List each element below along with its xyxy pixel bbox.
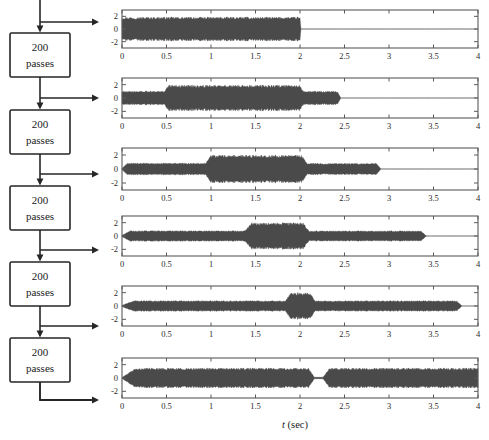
x-tick-label: 1	[209, 329, 213, 339]
y-tick-label: -2	[111, 37, 118, 47]
x-tick-label: 3.5	[428, 193, 439, 203]
flow-box-label-line1: 200	[32, 270, 49, 282]
flow-box-label-line1: 200	[32, 118, 49, 130]
flow-box-rect[interactable]	[10, 338, 70, 382]
x-tick-label: 3.5	[428, 329, 439, 339]
flow-box-rect[interactable]	[10, 262, 70, 306]
x-axis-label: t (sec)	[282, 419, 308, 431]
y-tick-label: -2	[111, 314, 118, 324]
x-tick-label: 0.5	[161, 259, 172, 269]
x-tick-label: 1	[209, 401, 213, 411]
x-tick-label: 0.5	[161, 401, 172, 411]
x-tick-label: 1	[209, 193, 213, 203]
flow-box-2[interactable]: 200passes	[10, 186, 70, 230]
x-tick-label: 1.5	[250, 259, 261, 269]
x-tick-label: 0.5	[161, 329, 172, 339]
x-tick-label: 0.5	[161, 51, 172, 61]
flow-box-rect[interactable]	[10, 186, 70, 230]
x-tick-label: 0	[120, 401, 124, 411]
flow-box-rect[interactable]	[10, 33, 70, 77]
x-tick-label: 3.5	[428, 259, 439, 269]
x-tick-label: 3.5	[428, 401, 439, 411]
flow-box-label-line1: 200	[32, 346, 49, 358]
x-tick-label: 3.5	[428, 51, 439, 61]
flow-box-label-line2: passes	[26, 134, 54, 146]
x-tick-label: 2.5	[339, 51, 350, 61]
flow-box-label-line2: passes	[26, 57, 54, 69]
x-tick-label: 1.5	[250, 193, 261, 203]
x-tick-label: 2.5	[339, 121, 350, 131]
x-tick-label: 2.5	[339, 193, 350, 203]
x-tick-label: 3	[387, 193, 391, 203]
x-tick-label: 2.5	[339, 329, 350, 339]
flow-box-1[interactable]: 200passes	[10, 110, 70, 154]
x-tick-label: 2	[298, 193, 302, 203]
y-tick-label: -2	[111, 386, 118, 396]
y-tick-label: 2	[114, 150, 118, 160]
x-tick-label: 2.5	[339, 259, 350, 269]
y-tick-label: 0	[114, 231, 118, 241]
flow-box-label-line1: 200	[32, 41, 49, 53]
x-tick-label: 2	[298, 121, 302, 131]
x-tick-label: 2	[298, 401, 302, 411]
y-tick-label: -2	[111, 244, 118, 254]
x-tick-label: 3	[387, 121, 391, 131]
y-tick-label: 0	[114, 24, 118, 34]
y-tick-label: 2	[114, 80, 118, 90]
x-tick-label: 1.5	[250, 329, 261, 339]
y-tick-label: 0	[114, 373, 118, 383]
x-tick-label: 0	[120, 259, 124, 269]
x-tick-label: 0.5	[161, 121, 172, 131]
x-tick-label: 2	[298, 259, 302, 269]
y-tick-label: 0	[114, 93, 118, 103]
x-tick-label: 3	[387, 401, 391, 411]
x-tick-label: 1	[209, 51, 213, 61]
figure-root: 200passes200passes200passes200passes200p…	[0, 0, 489, 440]
flow-box-label-line2: passes	[26, 362, 54, 374]
x-tick-label: 0	[120, 329, 124, 339]
flow-box-label-line2: passes	[26, 210, 54, 222]
x-tick-label: 3.5	[428, 121, 439, 131]
x-tick-label: 0	[120, 51, 124, 61]
x-tick-label: 3	[387, 329, 391, 339]
y-tick-label: -2	[111, 178, 118, 188]
x-tick-label: 1	[209, 121, 213, 131]
x-tick-label: 1.5	[250, 121, 261, 131]
x-tick-label: 2.5	[339, 401, 350, 411]
flow-box-label-line1: 200	[32, 194, 49, 206]
y-tick-label: 2	[114, 360, 118, 370]
y-tick-label: 0	[114, 164, 118, 174]
x-tick-label: 1.5	[250, 51, 261, 61]
signal-trace	[122, 368, 478, 388]
flow-box-4[interactable]: 200passes	[10, 338, 70, 382]
x-tick-label: 0	[120, 121, 124, 131]
x-tick-label: 2	[298, 329, 302, 339]
y-tick-label: 2	[114, 11, 118, 21]
y-tick-label: 2	[114, 288, 118, 298]
flow-box-rect[interactable]	[10, 110, 70, 154]
figure-canvas: 200passes200passes200passes200passes200p…	[0, 0, 489, 440]
flow-box-0[interactable]: 200passes	[10, 33, 70, 77]
x-tick-label: 1	[209, 259, 213, 269]
flow-box-label-line2: passes	[26, 286, 54, 298]
y-tick-label: 2	[114, 218, 118, 228]
y-tick-label: -2	[111, 106, 118, 116]
x-tick-label: 2	[298, 51, 302, 61]
x-tick-label: 3	[387, 259, 391, 269]
x-tick-label: 0.5	[161, 193, 172, 203]
x-tick-label: 3	[387, 51, 391, 61]
x-tick-label: 0	[120, 193, 124, 203]
x-tick-label: 1.5	[250, 401, 261, 411]
flow-box-3[interactable]: 200passes	[10, 262, 70, 306]
y-tick-label: 0	[114, 301, 118, 311]
